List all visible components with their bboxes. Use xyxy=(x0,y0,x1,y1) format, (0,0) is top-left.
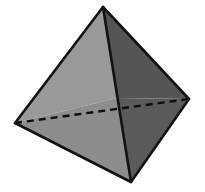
tetrahedron-figure: Tetrahedron xyxy=(0,0,205,192)
tetrahedron-svg xyxy=(0,0,205,192)
